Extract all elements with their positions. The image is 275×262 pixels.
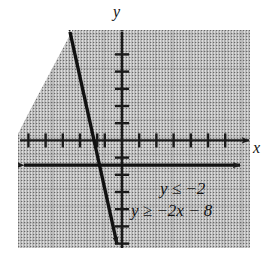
x-axis	[20, 133, 249, 147]
y-axis-label: y	[113, 4, 120, 20]
inequality-graph-figure: y x y ≤ −2 y ≥ −2x − 8	[0, 0, 275, 262]
inequality-label-2: y ≥ −2x − 8	[131, 202, 212, 219]
x-axis-label: x	[253, 140, 260, 156]
boundary-line-y-equals-neg2x-minus8	[70, 32, 117, 244]
inequality-label-1: y ≤ −2	[160, 180, 205, 197]
